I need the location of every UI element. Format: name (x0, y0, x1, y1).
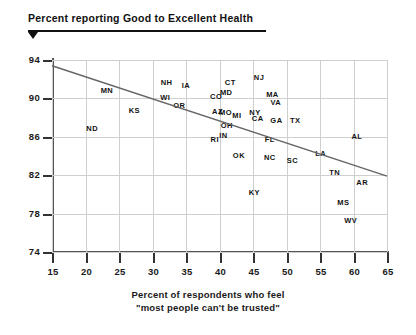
y-axis-tick-label: 94 (8, 54, 40, 65)
x-axis-tick-label: 45 (239, 266, 269, 277)
data-point-label: RI (211, 134, 219, 143)
data-point-label: OR (173, 101, 185, 110)
data-point-label: NH (161, 78, 173, 87)
data-point-label: AL (351, 131, 362, 140)
x-axis-tick (287, 253, 289, 263)
x-axis-tick (387, 253, 389, 263)
y-axis-tick (43, 98, 52, 100)
x-axis-tick-label: 35 (172, 266, 202, 277)
data-point-label: MA (266, 89, 279, 98)
x-axis-tick-label: 25 (105, 266, 135, 277)
x-axis-tick-label: 15 (38, 266, 68, 277)
down-triangle-icon (28, 32, 38, 39)
data-point-label: KS (129, 105, 140, 114)
x-axis-tick (220, 253, 222, 263)
scatter-chart: Percent reporting Good to Excellent Heal… (0, 0, 416, 335)
data-point-label: VA (270, 98, 281, 107)
data-point-label: TN (329, 168, 340, 177)
data-point-label: CT (225, 78, 236, 87)
x-axis-label-line2: "most people can't be trusted" (0, 301, 416, 314)
x-axis-tick (153, 253, 155, 263)
x-axis-label: Percent of respondents who feel "most pe… (0, 288, 416, 314)
data-point-label: ND (86, 124, 98, 133)
y-axis-tick (43, 252, 52, 254)
x-axis-tick (354, 253, 356, 263)
y-axis-tick (43, 60, 52, 62)
page-title: Percent reporting Good to Excellent Heal… (28, 12, 288, 24)
x-axis-tick-label: 40 (206, 266, 236, 277)
data-point-label: GA (270, 116, 282, 125)
gridline-vertical (253, 60, 254, 252)
data-point-label: MN (101, 85, 114, 94)
y-axis-tick (43, 137, 52, 139)
x-axis-tick (52, 253, 54, 263)
x-axis-tick-label: 60 (340, 266, 370, 277)
chart-title-block: Percent reporting Good to Excellent Heal… (28, 12, 288, 42)
gridline-vertical (52, 60, 53, 252)
x-axis-tick (320, 253, 322, 263)
data-point-label: SC (287, 155, 298, 164)
y-axis-tick (43, 175, 52, 177)
y-axis-tick-label: 74 (8, 246, 40, 257)
data-point-label: AR (356, 177, 368, 186)
data-point-label: OK (233, 151, 245, 160)
x-axis-tick (186, 253, 188, 263)
x-axis-tick (119, 253, 121, 263)
data-point-label: FL (265, 134, 275, 143)
data-point-label: MI (232, 110, 241, 119)
data-point-label: TX (290, 116, 300, 125)
gridline-horizontal (52, 60, 387, 61)
data-point-label: WV (344, 216, 357, 225)
data-point-label: NC (264, 152, 276, 161)
y-axis-tick-label: 90 (8, 92, 40, 103)
gridline-vertical (387, 60, 388, 252)
plot-area: NDMNKSNHIAWIORCTMDCOAZNJMAVAMINYCAGATXOH… (52, 60, 387, 252)
y-axis-tick-label: 86 (8, 131, 40, 142)
x-axis-tick-label: 65 (373, 266, 403, 277)
data-point-label: LA (315, 149, 326, 158)
x-axis-tick-label: 20 (72, 266, 102, 277)
gridline-vertical (119, 60, 120, 252)
data-point-label: CA (252, 113, 264, 122)
data-point-label: MS (337, 198, 349, 207)
x-axis-tick-label: 55 (306, 266, 336, 277)
data-point-label: OH (221, 121, 233, 130)
x-axis-tick-label: 50 (273, 266, 303, 277)
data-point-label: IN (219, 130, 227, 139)
x-axis-tick (253, 253, 255, 263)
gridline-vertical (86, 60, 87, 252)
data-point-label: NJ (254, 73, 265, 82)
gridline-horizontal (52, 214, 387, 215)
data-point-label: IA (182, 80, 190, 89)
y-axis-tick (43, 214, 52, 216)
x-axis-tick (86, 253, 88, 263)
x-axis-label-line1: Percent of respondents who feel (0, 288, 416, 301)
title-underline-rule (28, 30, 266, 32)
data-point-label: KY (249, 187, 260, 196)
data-point-label: CO (210, 91, 222, 100)
data-point-label: WI (160, 93, 170, 102)
data-point-label: MO (219, 107, 232, 116)
y-axis-tick-label: 82 (8, 169, 40, 180)
x-axis-tick-label: 30 (139, 266, 169, 277)
gridline-vertical (153, 60, 154, 252)
y-axis-tick-label: 78 (8, 208, 40, 219)
